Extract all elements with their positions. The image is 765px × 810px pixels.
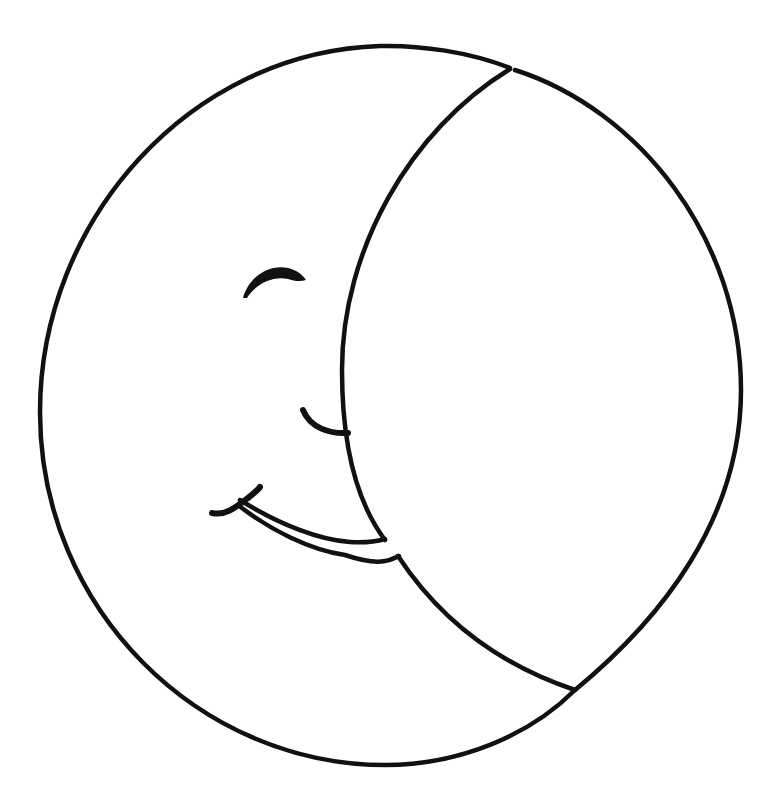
moon-drawing-canvas: Smiling crescent moon line drawing bbox=[0, 0, 765, 810]
closed-eye-icon bbox=[243, 267, 306, 298]
moon-illustration bbox=[0, 0, 765, 810]
crescent-divider-arc bbox=[342, 69, 510, 540]
crescent-divider-lower-arc bbox=[398, 556, 575, 690]
outer-circle-outline bbox=[40, 46, 741, 765]
nose-curve bbox=[303, 410, 348, 433]
